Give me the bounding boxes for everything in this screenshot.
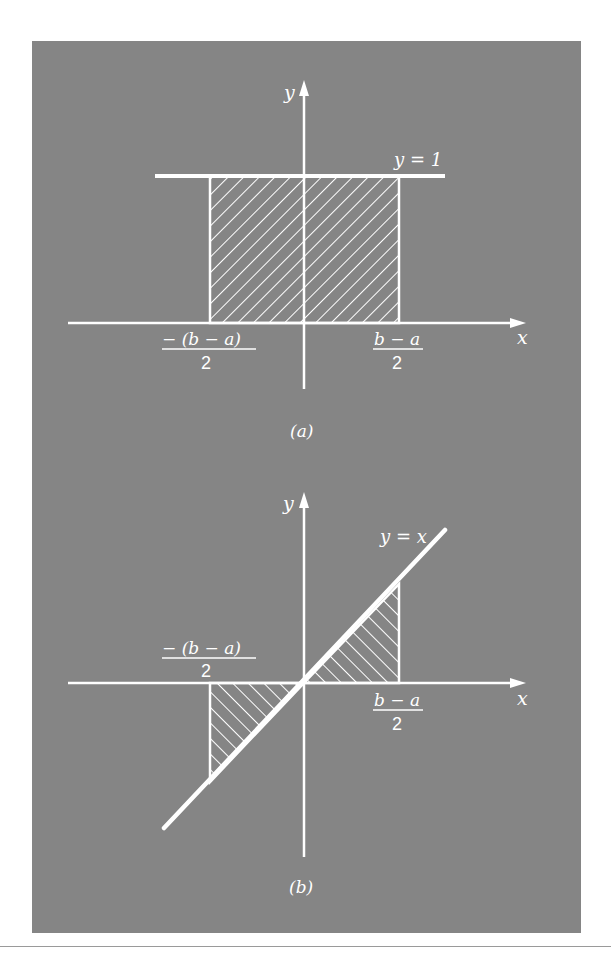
curve-label-b: y = x [379, 526, 427, 547]
right-tick-numerator-a: b − a [374, 329, 420, 349]
figure-diagram: y x y = 1 − (b − a) 2 b − a 2 (a) y x y … [0, 0, 611, 962]
left-tick-numerator-a: − (b − a) [162, 329, 241, 349]
y-axis-label-a: y [283, 81, 295, 103]
caption-b: (b) [289, 877, 313, 897]
panel-b: y x y = x − (b − a) 2 b − a 2 (b) [68, 492, 528, 897]
left-tick-denominator-a: 2 [201, 353, 211, 373]
shaded-triangle-right [304, 584, 399, 683]
y-axis-arrow-icon [299, 492, 309, 508]
right-tick-denominator-b: 2 [392, 714, 402, 734]
y-axis-arrow-icon [299, 80, 309, 96]
x-axis-label-b: x [517, 687, 528, 709]
right-tick-denominator-a: 2 [392, 353, 402, 373]
panel-a: y x y = 1 − (b − a) 2 b − a 2 (a) [68, 80, 528, 441]
right-tick-numerator-b: b − a [374, 690, 420, 710]
y-axis-label-b: y [282, 492, 294, 514]
curve-label-a: y = 1 [393, 149, 442, 170]
left-tick-denominator-b: 2 [201, 661, 211, 681]
caption-a: (a) [290, 421, 313, 441]
x-axis-label-a: x [517, 326, 528, 348]
left-tick-numerator-b: − (b − a) [162, 638, 241, 658]
